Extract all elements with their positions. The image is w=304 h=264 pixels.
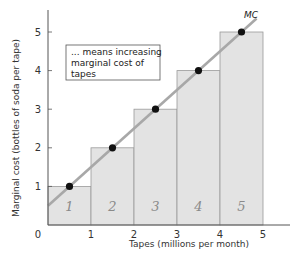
annotation-line-2: marginal cost of — [71, 58, 145, 68]
x-axis-title: Tapes (millions per month) — [128, 239, 249, 249]
y-tick-label: 3 — [35, 104, 41, 115]
annotation-line-1: ... means increasing — [71, 47, 162, 57]
y-tick-label: 4 — [35, 65, 41, 76]
mc-point — [195, 67, 202, 74]
y-tick-label: 5 — [35, 27, 41, 38]
mc-point — [238, 28, 245, 35]
bar-handwritten-label: 5 — [237, 199, 245, 214]
x-tick-label: 1 — [88, 229, 94, 240]
y-tick-label: 2 — [35, 142, 41, 153]
x-tick-label: 5 — [260, 229, 266, 240]
bar-handwritten-label: 4 — [193, 199, 202, 214]
y-axis-title: Marginal cost (bottles of soda per tape) — [11, 39, 21, 217]
bar-handwritten-label: 1 — [65, 199, 73, 214]
bar-5 — [220, 32, 263, 225]
marginal-cost-chart: 12345 12345012345 ... means increasing m… — [0, 0, 304, 264]
x-tick-label: 0 — [35, 229, 41, 240]
annotation-box: ... means increasing marginal cost of ta… — [66, 45, 162, 80]
bar-handwritten-label: 2 — [107, 199, 116, 214]
mc-point — [66, 183, 73, 190]
bar-handwritten-label: 3 — [151, 199, 159, 214]
y-tick-label: 1 — [35, 181, 41, 192]
mc-label: MC — [244, 10, 259, 20]
annotation-line-3: tapes — [71, 69, 96, 79]
mc-point — [109, 144, 116, 151]
mc-point — [152, 106, 159, 113]
